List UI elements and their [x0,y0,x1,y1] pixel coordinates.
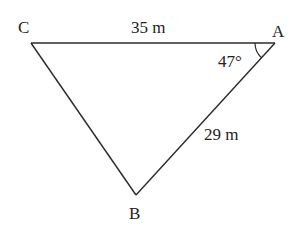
vertex-label-b: B [129,204,140,223]
side-label-ab: 29 m [204,125,238,144]
angle-arc-a [255,43,262,58]
triangle-diagram: C A B 35 m 29 m 47° [0,0,302,229]
vertex-label-c: C [18,18,29,37]
side-bc [31,43,136,195]
vertex-label-a: A [272,22,285,41]
side-label-ca: 35 m [131,18,165,37]
angle-label-a: 47° [218,52,242,71]
side-ab [136,43,275,195]
